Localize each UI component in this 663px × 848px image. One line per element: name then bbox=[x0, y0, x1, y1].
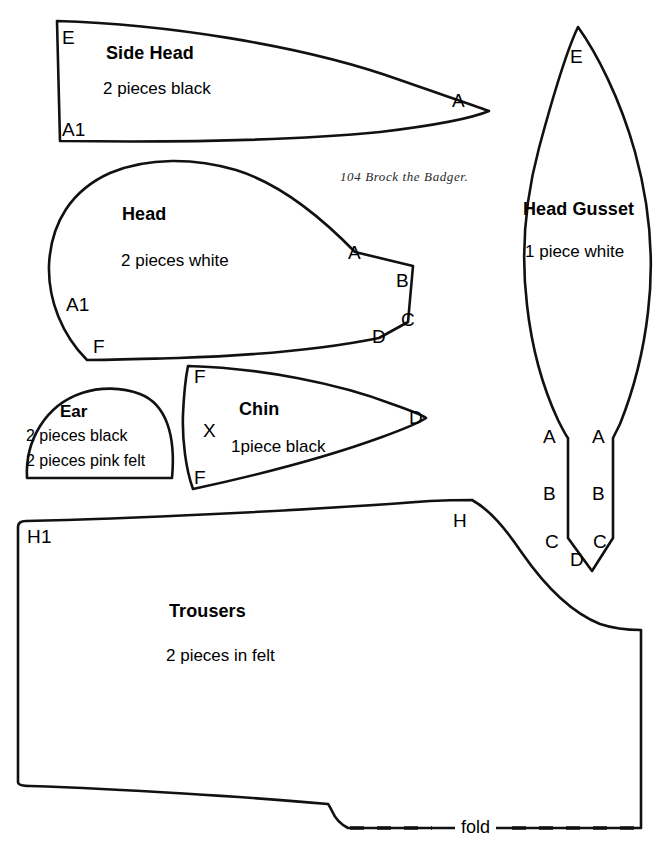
marker-chin-f-top: F bbox=[194, 367, 206, 386]
marker-gusset-c-right: C bbox=[593, 532, 607, 551]
chin-subtitle: 1piece black bbox=[231, 438, 326, 455]
marker-side-head-a1: A1 bbox=[62, 120, 86, 139]
marker-gusset-c-left: C bbox=[545, 532, 559, 551]
fold-label: fold bbox=[455, 818, 496, 836]
marker-gusset-e: E bbox=[570, 47, 583, 66]
marker-head-f: F bbox=[93, 337, 105, 356]
side-head-title: Side Head bbox=[106, 44, 194, 62]
head-gusset-subtitle: 1 piece white bbox=[525, 243, 624, 260]
marker-trousers-h1: H1 bbox=[27, 527, 52, 546]
ear-title: Ear bbox=[60, 403, 87, 420]
marker-head-b: B bbox=[396, 271, 409, 290]
ear-subtitle-2: 2 pieces pink felt bbox=[26, 453, 145, 469]
side-head-subtitle: 2 pieces black bbox=[103, 80, 211, 97]
page-header: 104 Brock the Badger. bbox=[340, 170, 468, 183]
ear-subtitle-1: 2 pieces black bbox=[26, 428, 127, 444]
head-title: Head bbox=[122, 205, 166, 223]
marker-chin-d: D bbox=[409, 408, 423, 427]
marker-gusset-b-right: B bbox=[592, 484, 605, 503]
marker-gusset-a-left: A bbox=[543, 427, 556, 446]
marker-gusset-a-right: A bbox=[592, 427, 605, 446]
chin-outline bbox=[183, 366, 426, 489]
marker-gusset-b-left: B bbox=[543, 484, 556, 503]
marker-side-head-e: E bbox=[62, 28, 75, 47]
chin-title: Chin bbox=[239, 400, 279, 418]
marker-chin-x: X bbox=[203, 421, 216, 440]
trousers-title: Trousers bbox=[169, 602, 246, 620]
pattern-sheet: 104 Brock the Badger. E A1 A Side Head 2… bbox=[0, 0, 663, 848]
marker-side-head-a: A bbox=[452, 91, 465, 110]
head-gusset-title: Head Gusset bbox=[523, 200, 634, 218]
marker-head-a1: A1 bbox=[66, 295, 90, 314]
marker-trousers-h: H bbox=[453, 511, 467, 530]
pattern-outlines-svg bbox=[0, 0, 663, 848]
trousers-subtitle: 2 pieces in felt bbox=[166, 647, 275, 664]
marker-head-a: A bbox=[348, 243, 361, 262]
marker-chin-f-bottom: F bbox=[194, 468, 206, 487]
marker-head-c: C bbox=[401, 310, 415, 329]
marker-head-d: D bbox=[372, 327, 386, 346]
marker-gusset-d: D bbox=[570, 550, 584, 569]
head-subtitle: 2 pieces white bbox=[121, 252, 229, 269]
